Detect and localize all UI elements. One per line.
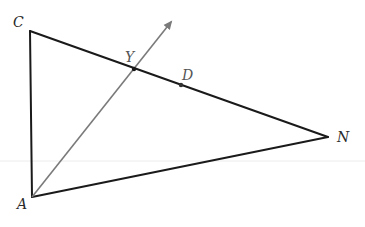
side-CA bbox=[30, 31, 32, 197]
vertex-label-C: C bbox=[13, 14, 24, 30]
vertex-label-N: N bbox=[336, 129, 350, 145]
side-CN bbox=[30, 31, 328, 137]
side-AN bbox=[32, 137, 328, 197]
point-label-Y: Y bbox=[125, 49, 136, 65]
ray-AY bbox=[32, 22, 171, 197]
geometry-diagram: C A N Y D bbox=[0, 0, 365, 227]
point-Y-dot bbox=[132, 67, 136, 71]
point-label-D: D bbox=[181, 67, 193, 83]
vertex-label-A: A bbox=[15, 196, 27, 212]
point-D-dot bbox=[179, 83, 183, 87]
